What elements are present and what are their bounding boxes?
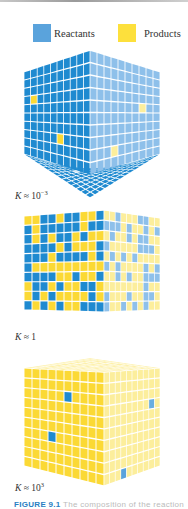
cube-low-k-graphic — [20, 50, 172, 202]
cube-low-k — [20, 50, 172, 202]
k-label-high: K ≈ 103 — [15, 481, 44, 493]
figure-caption-text: The composition of the reaction — [63, 500, 184, 509]
reactants-swatch — [33, 24, 51, 42]
top-border — [0, 0, 188, 2]
products-swatch — [118, 24, 136, 42]
cube-high-k-graphic — [20, 358, 172, 488]
cube-mid-k — [20, 210, 172, 322]
products-label: Products — [144, 28, 181, 39]
legend: Reactants Products — [0, 24, 188, 44]
cube-mid-k-graphic — [20, 210, 172, 322]
k-label-low: K ≈ 10−3 — [15, 189, 48, 201]
k-label-mid: K ≈ 1 — [15, 330, 36, 342]
figure-caption: FIGURE 9.1 The composition of the reacti… — [14, 500, 184, 509]
figure-caption-label: FIGURE 9.1 — [14, 500, 61, 509]
cube-high-k — [20, 358, 172, 488]
reactants-label: Reactants — [54, 28, 95, 39]
